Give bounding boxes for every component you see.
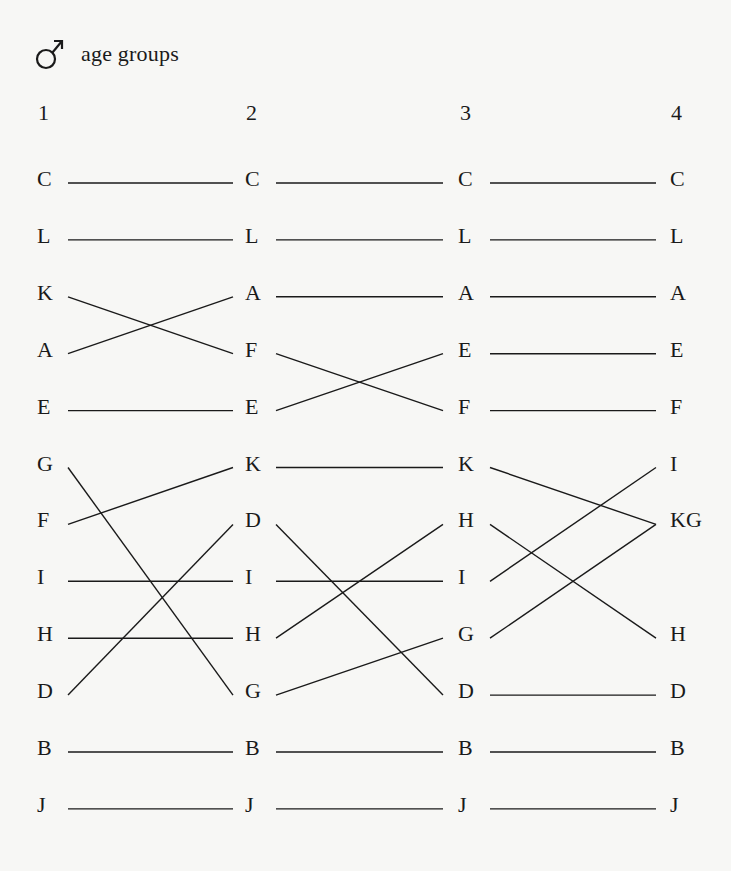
connection-line (490, 468, 656, 582)
connection-line (68, 524, 233, 695)
connection-lines (0, 0, 731, 871)
connection-line (276, 638, 443, 695)
connection-line (68, 468, 233, 525)
connection-line (276, 524, 443, 695)
connection-line (490, 468, 656, 525)
